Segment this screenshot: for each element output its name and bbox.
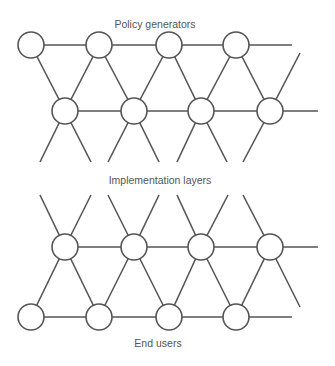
implementation-node — [121, 98, 147, 124]
implementation-node — [52, 234, 78, 260]
policy-generator-node — [223, 32, 249, 58]
implementation-node — [257, 234, 283, 260]
end-user-node — [156, 304, 182, 330]
label-end-users: End users — [134, 337, 181, 349]
end-user-node — [223, 304, 249, 330]
implementation-node — [188, 98, 214, 124]
implementation-node — [121, 234, 147, 260]
policy-generator-node — [86, 32, 112, 58]
network-diagram: Policy generators Implementation layers … — [0, 0, 335, 366]
lower-network-nodes — [18, 234, 283, 330]
end-user-node — [18, 304, 44, 330]
implementation-node — [257, 98, 283, 124]
implementation-node — [188, 234, 214, 260]
policy-generator-node — [156, 32, 182, 58]
end-user-node — [86, 304, 112, 330]
label-policy-generators: Policy generators — [114, 18, 195, 30]
label-implementation-layers: Implementation layers — [109, 174, 212, 186]
policy-generator-node — [18, 32, 44, 58]
implementation-node — [52, 98, 78, 124]
